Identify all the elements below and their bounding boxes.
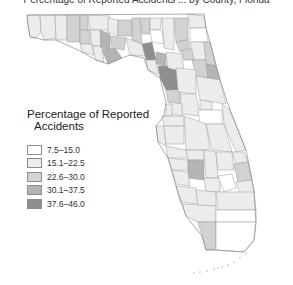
map-legend: Percentage of Reported Accidents 7.5–15.… xyxy=(27,108,149,211)
county-charlotte xyxy=(172,170,190,186)
legend-item: 7.5–15.0 xyxy=(27,143,149,157)
legend-list: 7.5–15.0 15.1–22.5 22.6–30.0 30.1–37.5 3… xyxy=(27,143,149,211)
legend-label: 30.1–37.5 xyxy=(47,185,85,195)
county-lake-okeechobee xyxy=(218,174,236,192)
county-gadsden xyxy=(108,18,118,36)
county-palm-beach xyxy=(216,192,256,210)
legend-title: Percentage of Reported Accidents xyxy=(27,108,149,132)
county-marion xyxy=(176,68,196,94)
county-leon xyxy=(118,20,132,36)
county-seminole xyxy=(200,100,212,110)
county-baker xyxy=(174,18,188,42)
county-okaloosa xyxy=(55,15,67,40)
legend-item: 30.1–37.5 xyxy=(27,184,149,198)
legend-label: 37.6–46.0 xyxy=(47,199,85,209)
county-madison xyxy=(140,18,150,34)
county-broward xyxy=(216,210,256,222)
legend-swatch xyxy=(27,199,42,209)
legend-title-line-1: Percentage of Reported xyxy=(27,108,149,120)
county-calhoun xyxy=(90,30,101,46)
county-hardee xyxy=(186,150,204,160)
county-gilchrist xyxy=(156,52,166,66)
county-hillsborough xyxy=(164,126,184,144)
county-okeechobee xyxy=(216,152,234,170)
county-highlands xyxy=(204,150,218,178)
county-lafayette xyxy=(142,42,156,60)
county-escambia xyxy=(27,15,41,38)
county-hamilton xyxy=(150,18,162,30)
county-nassau xyxy=(188,14,206,28)
county-collier xyxy=(182,204,216,222)
legend-label: 22.6–30.0 xyxy=(47,172,85,182)
legend-swatch xyxy=(27,172,42,182)
county-glades xyxy=(204,178,220,192)
legend-label: 15.1–22.5 xyxy=(47,158,85,168)
map-title: Percentage of Reported Accidents ... by … xyxy=(0,0,293,5)
county-santa-rosa xyxy=(40,15,56,40)
legend-swatch xyxy=(27,185,42,195)
county-liberty xyxy=(100,30,110,50)
county-hernando xyxy=(166,104,172,116)
legend-swatch xyxy=(27,158,42,168)
legend-item: 37.6–46.0 xyxy=(27,197,149,211)
county-columbia xyxy=(162,18,174,50)
legend-title-line-2: Accidents xyxy=(27,120,149,132)
county-pasco xyxy=(162,116,184,126)
county-holmes xyxy=(80,15,88,30)
county-wakulla xyxy=(110,36,126,50)
florida-keys xyxy=(193,253,247,274)
county-manatee xyxy=(166,146,188,158)
county-washington xyxy=(80,30,90,44)
county-desoto xyxy=(188,160,204,180)
legend-item: 22.6–30.0 xyxy=(27,170,149,184)
county-franklin xyxy=(102,48,122,64)
county-duval xyxy=(190,28,208,42)
county-volusia xyxy=(196,76,226,104)
county-walton xyxy=(67,15,80,42)
legend-label: 7.5–15.0 xyxy=(47,145,80,155)
county-miami-dade xyxy=(216,222,256,252)
county-hendry xyxy=(196,190,216,206)
county-orange xyxy=(198,110,222,124)
county-lake xyxy=(180,94,200,116)
county-monroe xyxy=(198,222,216,250)
county-citrus xyxy=(166,90,180,104)
legend-item: 15.1–22.5 xyxy=(27,157,149,171)
legend-swatch xyxy=(27,145,42,155)
county-jackson xyxy=(88,15,110,30)
